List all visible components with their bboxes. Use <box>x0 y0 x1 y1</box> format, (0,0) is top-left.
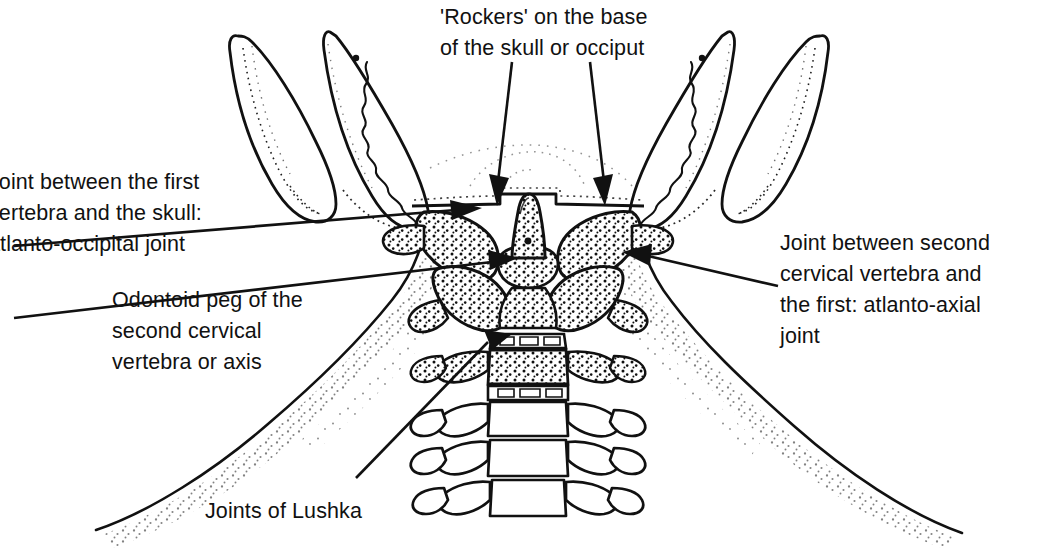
label-rockers: 'Rockers' on the base of the skull or oc… <box>440 2 720 64</box>
label-atlanto-axial-joint: Joint between second cervical vertebra a… <box>780 228 1050 352</box>
pointer-rockers-left <box>489 62 512 206</box>
mandible-ramus-right <box>722 36 829 222</box>
label-odontoid-peg: Odontoid peg of the second cervical vert… <box>112 285 392 378</box>
pointer-rockers-right <box>590 62 613 206</box>
mastoid-process-left <box>323 32 428 229</box>
label-atlanto-occipital-joint: Joint between the first vertebra and the… <box>0 167 318 260</box>
cervical-vertebra-c3 <box>411 334 646 400</box>
figure-canvas: 'Rockers' on the base of the skull or oc… <box>0 0 1056 551</box>
cervical-vertebra-c4 <box>411 402 646 436</box>
label-joints-of-lushka: Joints of Lushka <box>205 496 465 527</box>
cervical-vertebra-c5 <box>411 440 646 476</box>
odontoid-peg <box>512 194 545 258</box>
